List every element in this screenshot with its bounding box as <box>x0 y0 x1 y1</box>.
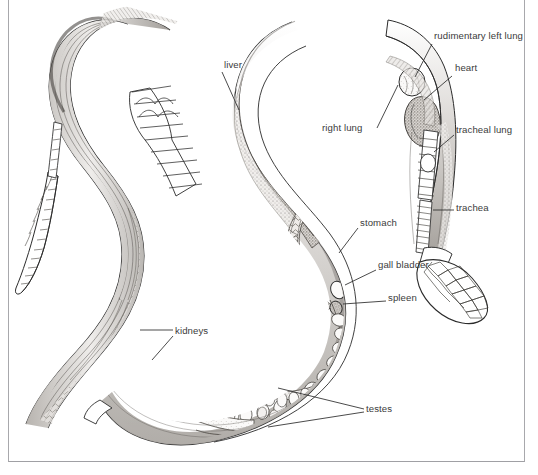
label-stomach: stomach <box>360 218 397 228</box>
label-liver: liver <box>224 60 242 70</box>
left-snake-external-view <box>15 1 202 430</box>
left-snake-tail <box>15 172 58 294</box>
label-gall-bladder: gall bladder <box>378 260 429 270</box>
label-rudimentary-left-lung: rudimentary left lung <box>434 31 523 41</box>
label-spleen: spleen <box>388 293 417 303</box>
left-snake-scale-plates-upper <box>48 122 62 178</box>
left-snake-dorsal-scales <box>96 1 190 63</box>
leader-spleen <box>343 301 386 304</box>
label-trachea: trachea <box>456 203 489 213</box>
leader-liver <box>222 72 239 110</box>
leader-stomach <box>339 228 358 253</box>
label-tracheal-lung: tracheal lung <box>456 125 512 135</box>
label-kidneys: kidneys <box>175 326 208 336</box>
label-heart: heart <box>455 63 477 73</box>
testes-structure <box>246 366 348 422</box>
label-testes: testes <box>366 404 392 414</box>
left-snake-ventral-plates <box>130 86 203 196</box>
label-right-lung: right lung <box>322 123 362 133</box>
right-snake-internal-view <box>84 20 488 445</box>
leader-kidneys-b <box>152 336 173 360</box>
leader-right-lung <box>377 85 398 128</box>
figure-plate: liver rudimentary left lung heart right … <box>0 0 538 475</box>
